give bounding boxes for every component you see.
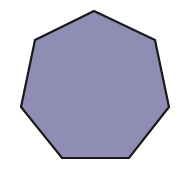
diagram-canvas <box>0 0 184 175</box>
heptagon-shape <box>21 11 169 158</box>
